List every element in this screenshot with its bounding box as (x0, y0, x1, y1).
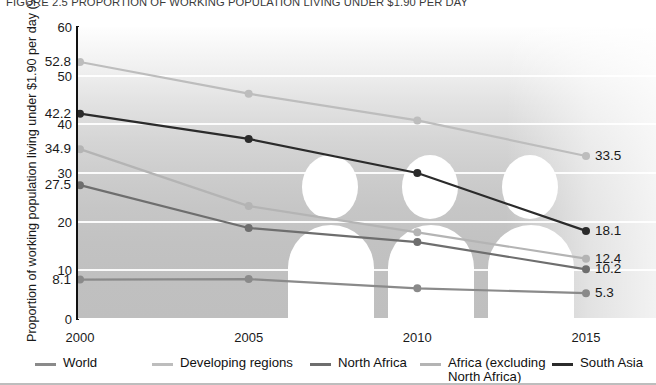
data-point-marker (582, 227, 590, 235)
data-point-marker (413, 238, 421, 246)
y-axis-tick-0: 0 (38, 313, 72, 326)
legend-label: World (63, 356, 97, 370)
series-lines (78, 27, 656, 319)
line-developing-regions (80, 62, 586, 156)
legend-color-swatch (152, 363, 173, 366)
y-axis-tick-50: 50 (38, 70, 72, 83)
legend-label: North Africa (338, 356, 407, 370)
data-point-marker (582, 289, 590, 297)
value-label-start-south-asia: 42.2 (45, 107, 71, 121)
y-axis-tick-60: 60 (38, 21, 72, 34)
figure-title: FIGURE 2.5 PROPORTION OF WORKING POPULAT… (6, 0, 646, 10)
x-axis-tick-2000: 2000 (66, 330, 95, 345)
value-label-start-africa-excluding-north-africa: 34.9 (45, 142, 71, 156)
data-point-marker (245, 275, 253, 283)
data-point-marker (78, 110, 84, 118)
value-label-end-africa-excluding-north-africa: 12.4 (595, 252, 621, 266)
data-point-marker (245, 224, 253, 232)
data-point-marker (245, 90, 253, 98)
data-point-marker (78, 276, 84, 284)
legend-color-swatch (552, 363, 573, 366)
value-label-end-world: 5.3 (595, 286, 614, 300)
legend-label: Africa (excluding North Africa) (448, 356, 545, 385)
value-label-start-developing-regions: 52.8 (45, 55, 71, 69)
legend-label: Developing regions (180, 356, 293, 370)
y-axis-tick-20: 20 (38, 216, 72, 229)
value-label-start-world: 8.1 (52, 273, 71, 287)
legend-item-world[interactable]: World (35, 356, 97, 370)
x-axis-tick-2015: 2015 (572, 330, 601, 345)
legend-color-swatch (310, 363, 331, 366)
data-point-marker (78, 145, 84, 153)
chart-legend: WorldDeveloping regionsNorth AfricaAfric… (0, 352, 656, 385)
legend-color-swatch (35, 363, 56, 366)
figure-container: FIGURE 2.5 PROPORTION OF WORKING POPULAT… (0, 0, 656, 385)
legend-item-africa-excluding-north-africa[interactable]: Africa (excluding North Africa) (420, 356, 545, 385)
value-label-start-north-africa: 27.5 (45, 178, 71, 192)
legend-label: South Asia (580, 356, 643, 370)
data-point-marker (78, 181, 84, 189)
line-world (80, 279, 586, 293)
plot-area (78, 27, 656, 319)
x-axis-tick-2010: 2010 (403, 330, 432, 345)
data-point-marker (245, 202, 253, 210)
data-point-marker (413, 284, 421, 292)
value-label-end-south-asia: 18.1 (595, 224, 621, 238)
line-south-asia (80, 114, 586, 231)
data-point-marker (78, 58, 84, 66)
data-point-marker (582, 152, 590, 160)
x-axis-tick-labels: 2000200520102015 (78, 330, 656, 350)
value-label-end-developing-regions: 33.5 (595, 149, 621, 163)
legend-color-swatch (420, 363, 441, 366)
data-point-marker (582, 265, 590, 273)
data-point-marker (245, 135, 253, 143)
data-point-marker (413, 116, 421, 124)
data-point-marker (413, 228, 421, 236)
data-point-marker (582, 255, 590, 263)
legend-item-north-africa[interactable]: North Africa (310, 356, 407, 370)
legend-item-developing-regions[interactable]: Developing regions (152, 356, 293, 370)
legend-item-south-asia[interactable]: South Asia (552, 356, 643, 370)
x-axis-tick-2005: 2005 (234, 330, 263, 345)
data-point-marker (413, 169, 421, 177)
line-north-africa (80, 185, 586, 269)
